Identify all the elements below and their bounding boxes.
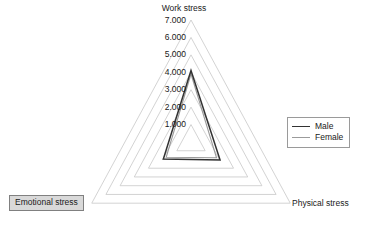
radial-tick-label-2: 2.000 [146,103,186,112]
axis-title-physical-stress: Physical stress [292,199,349,208]
radial-tick-label-1: 1.000 [146,120,186,129]
legend-swatch-male [292,126,310,127]
grid-ring-3 [148,90,233,169]
chart-legend: Male Female [287,117,350,148]
radial-tick-label-6: 6.000 [146,33,186,42]
axis-title-work-stress: Work stress [0,4,368,13]
axis-title-emotional-stress-selected[interactable]: Emotional stress [9,195,84,211]
legend-item-male[interactable]: Male [292,121,343,132]
legend-swatch-female [292,137,310,138]
grid-ring-6 [106,37,276,194]
grid-ring-7 [92,20,291,203]
radial-tick-label-4: 4.000 [146,68,186,77]
grid-rings [92,20,291,203]
radar-chart: Work stress Physical stress Emotional st… [0,0,368,226]
radial-tick-label-5: 5.000 [146,50,186,59]
legend-label-female: Female [315,133,343,142]
radial-tick-label-7: 7.000 [146,16,186,25]
legend-item-female[interactable]: Female [292,132,343,143]
radial-tick-label-3: 3.000 [146,85,186,94]
legend-label-male: Male [315,122,333,131]
